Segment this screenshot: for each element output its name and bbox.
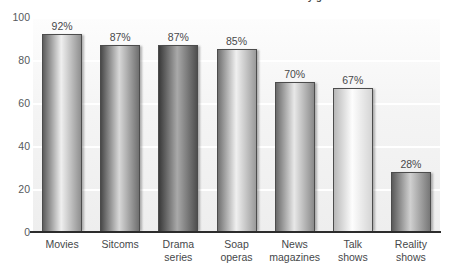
bar[interactable] (42, 34, 82, 232)
gridline (33, 17, 440, 19)
x-axis-category-label-line: News (266, 238, 324, 251)
bar-value-label: 67% (321, 74, 385, 86)
x-axis-category-label: Realityshows (382, 238, 440, 263)
y-axis: 020406080100 (0, 0, 30, 279)
bar-value-label: 87% (146, 31, 210, 43)
bar-value-label: 85% (205, 35, 269, 47)
x-axis-category-label-line: shows (382, 251, 440, 264)
bar-group: 67% (333, 17, 373, 232)
y-axis-tick-label: 100 (4, 12, 30, 23)
bar-value-label: 87% (88, 31, 152, 43)
bar-group: 85% (217, 17, 257, 232)
x-axis-category-label-line: Drama (149, 238, 207, 251)
x-axis-category-label-line: Sitcoms (91, 238, 149, 251)
bar-group: 92% (42, 17, 82, 232)
x-axis-category-label: Soapoperas (207, 238, 265, 263)
bar-group: 87% (100, 17, 140, 232)
bar-value-label: 28% (379, 158, 443, 170)
x-axis-category-label-line: series (149, 251, 207, 264)
bar-value-label: 92% (30, 20, 94, 32)
bar-chart: Percent of teens who watch television by… (0, 0, 463, 279)
y-axis-tick-label: 20 (4, 184, 30, 195)
bar-group: 87% (158, 17, 198, 232)
plot-area: 92%87%87%85%70%67%28% (33, 17, 440, 232)
x-axis-category-label-line: Movies (33, 238, 91, 251)
bar-group: 28% (391, 17, 431, 232)
bar[interactable] (275, 82, 315, 233)
bar[interactable] (217, 49, 257, 232)
x-axis-category-label-line: Soap (207, 238, 265, 251)
x-axis-line (30, 231, 441, 233)
x-axis-category-label: Dramaseries (149, 238, 207, 263)
chart-title: Percent of teens who watch television by… (0, 0, 463, 2)
y-axis-tick-label: 60 (4, 98, 30, 109)
x-axis-category-label-line: Reality (382, 238, 440, 251)
x-axis-category-label-line: operas (207, 251, 265, 264)
x-axis-category-label: Newsmagazines (266, 238, 324, 263)
bar[interactable] (158, 45, 198, 232)
bar[interactable] (100, 45, 140, 232)
bar[interactable] (391, 172, 431, 232)
x-axis-category-label: Movies (33, 238, 91, 251)
x-axis-category-label: Talkshows (324, 238, 382, 263)
x-axis-category-label: Sitcoms (91, 238, 149, 251)
y-axis-tick-label: 40 (4, 141, 30, 152)
x-axis-category-label-line: Talk (324, 238, 382, 251)
bar-value-label: 70% (263, 68, 327, 80)
x-axis-category-label-line: magazines (266, 251, 324, 264)
y-axis-tick-label: 80 (4, 55, 30, 66)
x-axis-category-label-line: shows (324, 251, 382, 264)
bar[interactable] (333, 88, 373, 232)
y-axis-tick-label: 0 (4, 227, 30, 238)
bar-group: 70% (275, 17, 315, 232)
